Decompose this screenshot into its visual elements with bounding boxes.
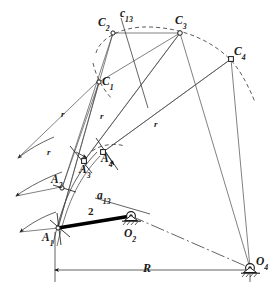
label-a13-sub: 13 <box>103 197 111 206</box>
label-O4: O4 <box>256 256 268 270</box>
label-c13: c13 <box>120 8 133 22</box>
point-markers <box>56 31 234 230</box>
marker-C3 <box>178 31 183 36</box>
label-O2-sub: 2 <box>132 235 136 244</box>
label-A4-sub: 4 <box>109 160 113 169</box>
label-a13: a13 <box>97 190 111 204</box>
label-link-2: 2 <box>88 206 94 217</box>
label-A3: A3 <box>79 164 91 178</box>
label-r-2: r <box>100 112 104 121</box>
label-C4: C4 <box>234 46 246 60</box>
label-C4-base: C <box>234 45 242 57</box>
fan-ray-1 <box>18 82 97 158</box>
dimension-R <box>55 232 250 282</box>
marker-C4 <box>229 57 234 62</box>
label-c13-sub: 13 <box>125 15 133 24</box>
crank-link-2 <box>58 216 131 228</box>
marker-A1 <box>56 226 60 230</box>
label-C1-sub: 1 <box>110 83 114 92</box>
label-A3-sub: 3 <box>87 171 91 180</box>
label-A2: A2 <box>51 174 63 188</box>
label-A1-sub: 1 <box>50 239 54 248</box>
label-A4: A4 <box>101 153 113 167</box>
label-C3: C3 <box>175 15 187 29</box>
crank-link-line <box>58 216 131 228</box>
dashed-curves <box>92 27 255 151</box>
label-C2-sub: 2 <box>106 24 110 33</box>
label-A1-base: A <box>42 231 50 243</box>
label-O4-sub: 4 <box>264 263 268 272</box>
c13-bisector-line <box>121 18 148 108</box>
label-C2: C2 <box>98 17 110 31</box>
label-r-4: r <box>47 148 51 157</box>
label-C3-sub: 3 <box>183 22 187 31</box>
marker-C2 <box>111 31 115 35</box>
label-O2: O2 <box>124 228 136 242</box>
label-r-1: r <box>61 110 65 119</box>
label-A1: A1 <box>42 232 54 246</box>
label-C1-base: C <box>102 75 110 87</box>
label-C1: C1 <box>102 76 114 90</box>
label-r-3: r <box>154 120 158 129</box>
label-A2-sub: 2 <box>59 181 63 190</box>
label-A2-base: A <box>51 173 59 185</box>
label-a13-base: a <box>97 189 103 201</box>
figure-canvas: c13 C2 C3 C4 C1 r r r r A4 A3 A2 a13 2 A… <box>0 0 280 294</box>
label-C3-base: C <box>175 14 183 26</box>
marker-C1 <box>97 80 101 84</box>
ray-A4-to-C4 <box>103 59 231 152</box>
label-C4-sub: 4 <box>242 53 246 62</box>
label-A3-base: A <box>79 163 87 175</box>
label-C2-base: C <box>98 16 106 28</box>
label-A4-base: A <box>101 152 109 164</box>
label-R: R <box>143 262 151 274</box>
